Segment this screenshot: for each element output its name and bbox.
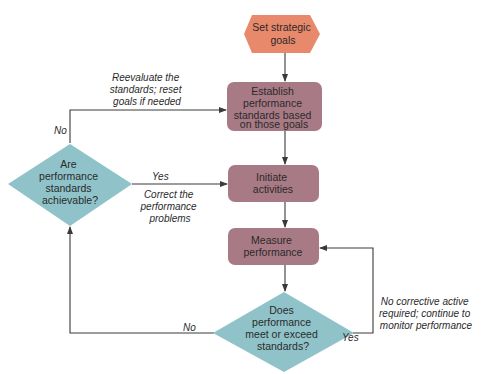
flowchart: Set strategic goals Establish performanc…: [0, 0, 482, 374]
node-text-measure: Measure performance: [244, 234, 303, 258]
label-yes-left: Yes: [152, 171, 169, 182]
edge-no-to-achievable: [70, 227, 214, 333]
label-yes-right: Yes: [342, 332, 359, 343]
label-no-top: No: [54, 125, 67, 136]
node-text-initiate: Initiate activities: [253, 171, 293, 195]
label-reevaluate: Reevaluate the standards; reset goals if…: [110, 72, 185, 107]
label-no-corrective: No corrective active required; continue …: [379, 296, 473, 331]
label-correct: Correct the performance problems: [140, 189, 200, 224]
label-no-bottom: No: [183, 322, 196, 333]
edge-achievable-no-to-establish: [70, 110, 226, 143]
